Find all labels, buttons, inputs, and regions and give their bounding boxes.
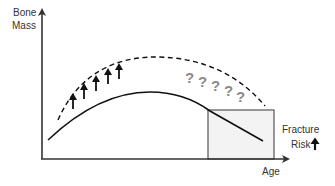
question-mark: ? (236, 88, 245, 105)
up-arrow-icon (69, 93, 77, 109)
risk-label: Risk (291, 139, 310, 151)
uncertainty-marks: ? ? ? ? ? (185, 69, 245, 105)
peak-increase-arrows (69, 63, 123, 109)
question-mark: ? (224, 82, 233, 99)
fracture-risk-region (208, 110, 274, 159)
question-mark: ? (198, 73, 207, 90)
question-mark: ? (185, 69, 194, 86)
up-arrow-icon (80, 83, 88, 99)
y-axis-label-mass: Mass (12, 20, 36, 32)
bone-mass-diagram: ? ? ? ? ? (0, 0, 335, 186)
question-mark: ? (211, 77, 220, 94)
up-arrow-icon (92, 75, 100, 91)
fracture-label: Fracture (282, 124, 319, 136)
up-arrow-icon (115, 63, 123, 79)
x-axis-label: Age (262, 166, 280, 178)
risk-up-arrow-icon (311, 138, 320, 151)
y-axis-label-bone: Bone (13, 7, 36, 19)
up-arrow-icon (104, 68, 112, 84)
